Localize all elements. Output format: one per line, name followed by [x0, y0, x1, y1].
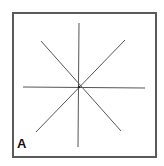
- panel-label: A: [17, 136, 26, 151]
- vertical-line: [78, 23, 79, 147]
- center-point: [78, 86, 80, 88]
- diagonal-ne-sw-line: [36, 40, 125, 132]
- horizontal-line: [23, 87, 145, 88]
